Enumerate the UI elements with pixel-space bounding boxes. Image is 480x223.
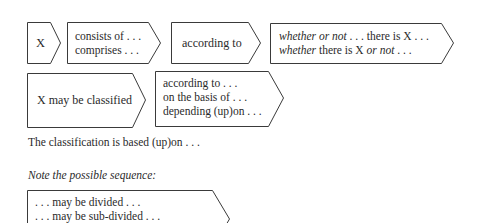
box-basis: according to . . . on the basis of . . .…	[163, 76, 262, 118]
ellipsis-text: . . .	[394, 44, 411, 56]
box-classified-label: X may be classified	[37, 93, 132, 107]
classification-sentence: The classification is based (up)on . . .	[28, 135, 200, 149]
box-basis-line-1: according to . . .	[163, 76, 262, 90]
box-basis-line-3: depending (up)on . . .	[163, 104, 262, 118]
box-classified: X may be classified	[37, 93, 132, 107]
note-heading: Note the possible sequence:	[28, 168, 156, 182]
there-is-x-text: . . . there is X . . .	[347, 30, 429, 42]
box-x: X	[36, 36, 45, 50]
there-is-x-text-2: there is X	[316, 44, 366, 56]
whether-or-not-italic: whether or not	[279, 30, 347, 42]
box-whether: whether or not . . . there is X . . . wh…	[279, 29, 429, 57]
box-according-label: according to	[182, 36, 242, 50]
sequence-line-1: . . . may be divided . . .	[35, 195, 160, 209]
box-consists-line-2: comprises . . .	[75, 43, 141, 57]
or-not-italic: or not	[367, 44, 395, 56]
box-x-label: X	[36, 36, 45, 50]
box-consists-line-1: consists of . . .	[75, 29, 141, 43]
sequence-line-2: . . . may be sub-divided . . .	[35, 209, 160, 223]
box-whether-line-2: whether there is X or not . . .	[279, 43, 429, 57]
whether-italic: whether	[279, 44, 316, 56]
box-consists: consists of . . . comprises . . .	[75, 29, 141, 57]
sequence-box: . . . may be divided . . . . . . may be …	[35, 195, 160, 223]
box-basis-line-2: on the basis of . . .	[163, 90, 262, 104]
box-whether-line-1: whether or not . . . there is X . . .	[279, 29, 429, 43]
box-according: according to	[182, 36, 242, 50]
